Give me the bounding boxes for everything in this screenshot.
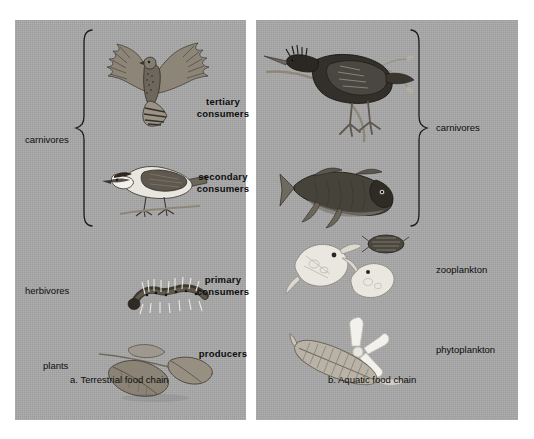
trophic-label-tertiary: tertiary consumers	[192, 96, 254, 120]
trophic-secondary-line1: secondary	[198, 171, 247, 182]
label-herbivores: herbivores	[25, 285, 69, 297]
trophic-secondary-line2: consumers	[197, 183, 250, 194]
trophic-label-producers: producers	[190, 348, 256, 360]
food-chain-figure: carnivores herbivores plants a. Terrestr…	[0, 0, 534, 439]
carnivores-brace-right	[408, 28, 430, 228]
label-plants: plants	[43, 360, 68, 372]
trophic-tertiary-line1: tertiary	[206, 96, 240, 107]
panel-terrestrial: carnivores herbivores plants a. Terrestr…	[15, 20, 246, 420]
fish-illustration	[280, 152, 410, 232]
heron-illustration	[264, 30, 416, 146]
label-carnivores-left: carnivores	[25, 134, 69, 146]
trophic-label-primary: primary consumers	[190, 274, 256, 298]
trophic-label-secondary: secondary consumers	[188, 171, 258, 195]
caption-terrestrial: a. Terrestrial food chain	[70, 374, 169, 385]
panel-aquatic: carnivores zooplankton phytoplankton b. …	[256, 20, 518, 420]
label-carnivores-right: carnivores	[436, 122, 480, 134]
trophic-primary-line1: primary	[205, 274, 241, 285]
label-zooplankton: zooplankton	[436, 264, 487, 276]
trophic-tertiary-line2: consumers	[197, 108, 250, 119]
label-phytoplankton: phytoplankton	[436, 344, 495, 356]
carnivores-brace-left	[73, 28, 95, 228]
caption-aquatic: b. Aquatic food chain	[328, 374, 416, 385]
zooplankton-illustration	[282, 228, 410, 302]
trophic-primary-line2: consumers	[197, 286, 250, 297]
